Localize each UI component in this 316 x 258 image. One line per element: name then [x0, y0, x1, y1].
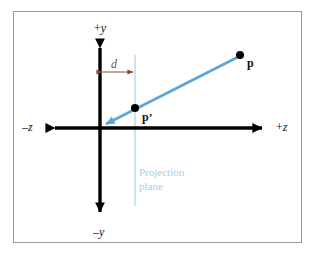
axis-label-plus-y: +y: [94, 22, 106, 34]
axis-name-plus-y: y: [101, 21, 106, 35]
d-distance-label: d: [111, 58, 117, 70]
axis-name-minus-y: y: [99, 225, 104, 239]
projection-diagram: +y –y –z +z d p p’ Projection plane: [0, 0, 316, 258]
point-p-dot: [236, 51, 244, 59]
axis-sign-plus-y: +: [94, 21, 101, 35]
axis-label-plus-z: +z: [276, 121, 287, 133]
projection-ray: [106, 56, 240, 124]
diagram-canvas: [0, 0, 316, 258]
projection-plane-label-line1: Projection: [139, 166, 184, 180]
point-p-prime-mark: ’: [149, 111, 153, 123]
point-p-name: p: [247, 56, 254, 70]
axis-label-minus-z: –z: [22, 121, 33, 133]
point-p-prime-name: p: [142, 110, 149, 124]
point-p-label: p: [247, 57, 254, 69]
axis-label-minus-y: –y: [93, 226, 104, 238]
projection-plane-label: Projection plane: [139, 166, 184, 194]
point-p-prime-dot: [131, 104, 139, 112]
point-p-prime-label: p’: [142, 111, 152, 123]
axis-name-plus-z: z: [283, 120, 288, 134]
projection-plane-label-line2: plane: [139, 180, 184, 194]
axis-name-minus-z: z: [28, 120, 33, 134]
axis-sign-plus-z: +: [276, 120, 283, 134]
